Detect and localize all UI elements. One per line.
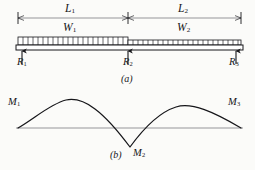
figure-vector-canvas [0, 0, 255, 170]
reaction-label-r3: R3 [229, 57, 239, 68]
moment-diagram-group [16, 99, 243, 147]
moment-label-m3: M3 [228, 97, 240, 108]
moment-label-m1: M1 [8, 97, 20, 108]
beam-member [16, 45, 243, 50]
reaction-label-r2: R2 [123, 57, 133, 68]
beam-moment-figure: L1 L2 W1 W2 R1 R2 R3 (a) M1 M2 M3 (b) [0, 0, 255, 170]
dimension-label-l2: L2 [178, 3, 188, 15]
panel-caption-a: (a) [121, 74, 133, 84]
bending-moment-curve [18, 99, 241, 147]
distributed-load-w1 [18, 37, 128, 45]
dimension-lines-group [18, 12, 241, 24]
panel-caption-b: (b) [110, 150, 122, 160]
moment-label-m2: M2 [133, 148, 145, 159]
dimension-label-l1: L1 [65, 3, 75, 15]
reaction-label-r1: R1 [17, 57, 27, 68]
distributed-load-w2 [128, 40, 241, 45]
load-label-w1: W1 [63, 22, 76, 34]
load-label-w2: W2 [177, 22, 190, 34]
